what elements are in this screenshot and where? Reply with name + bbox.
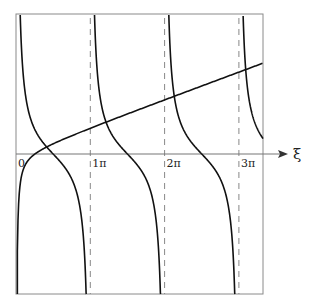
cot-branch [243,16,263,139]
x-tick-label: 1π [92,157,106,170]
asymptote-lines [90,18,239,294]
x-axis-label: ξ [293,145,301,163]
x-tick-label: 3π [241,157,255,170]
chart: ξ 01π2π3π [0,0,311,308]
rising-curve [17,63,262,294]
x-tick-label: 2π [167,157,181,170]
